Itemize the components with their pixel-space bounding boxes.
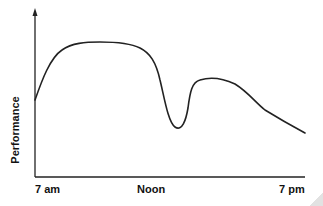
x-tick-noon: Noon xyxy=(137,183,165,195)
performance-curve xyxy=(35,42,305,133)
y-axis-arrow-icon xyxy=(33,8,38,16)
x-tick-7pm: 7 pm xyxy=(279,183,305,195)
y-axis-label: Performance xyxy=(6,90,24,170)
page-curl-decoration xyxy=(309,192,323,206)
y-axis-label-text: Performance xyxy=(9,96,21,163)
chart-svg xyxy=(0,0,323,206)
performance-chart: Performance 7 am Noon 7 pm xyxy=(0,0,323,206)
x-tick-7am: 7 am xyxy=(35,183,60,195)
